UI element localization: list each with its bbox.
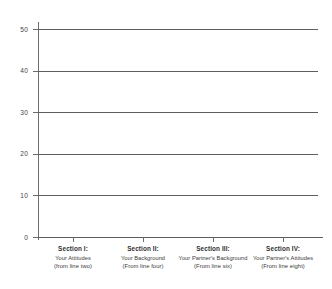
gridline-20 bbox=[38, 154, 318, 155]
y-tick-mark-50 bbox=[33, 29, 38, 30]
gridline-10 bbox=[38, 195, 318, 196]
y-tick-label-30: 30 bbox=[8, 109, 28, 116]
score-chart: 50 40 30 20 10 0 Section I: Your Attitud… bbox=[0, 0, 332, 289]
category-label-section-4: Section IV: Your Partner's Attitudes (Fr… bbox=[238, 245, 328, 271]
y-tick-mark-10 bbox=[33, 195, 38, 196]
x-tick-mark-section-1 bbox=[73, 237, 74, 242]
x-tick-mark-section-2 bbox=[143, 237, 144, 242]
gridline-50 bbox=[38, 29, 318, 30]
gridline-30 bbox=[38, 112, 318, 113]
plot-area bbox=[38, 29, 318, 237]
x-tick-mark-section-3 bbox=[213, 237, 214, 242]
y-tick-label-50: 50 bbox=[8, 26, 28, 33]
category-source-section-4: (From line eight) bbox=[238, 262, 328, 271]
y-tick-label-20: 20 bbox=[8, 150, 28, 157]
gridline-40 bbox=[38, 71, 318, 72]
x-axis-line bbox=[38, 237, 323, 238]
y-tick-mark-0 bbox=[33, 237, 38, 238]
y-tick-label-40: 40 bbox=[8, 67, 28, 74]
y-tick-label-0: 0 bbox=[8, 234, 28, 241]
y-tick-mark-20 bbox=[33, 154, 38, 155]
category-subtitle-section-4: Your Partner's Attitudes bbox=[238, 254, 328, 263]
y-tick-mark-40 bbox=[33, 71, 38, 72]
y-tick-mark-30 bbox=[33, 112, 38, 113]
x-tick-mark-section-4 bbox=[283, 237, 284, 242]
y-tick-label-10: 10 bbox=[8, 192, 28, 199]
category-title-section-4: Section IV: bbox=[238, 245, 328, 254]
